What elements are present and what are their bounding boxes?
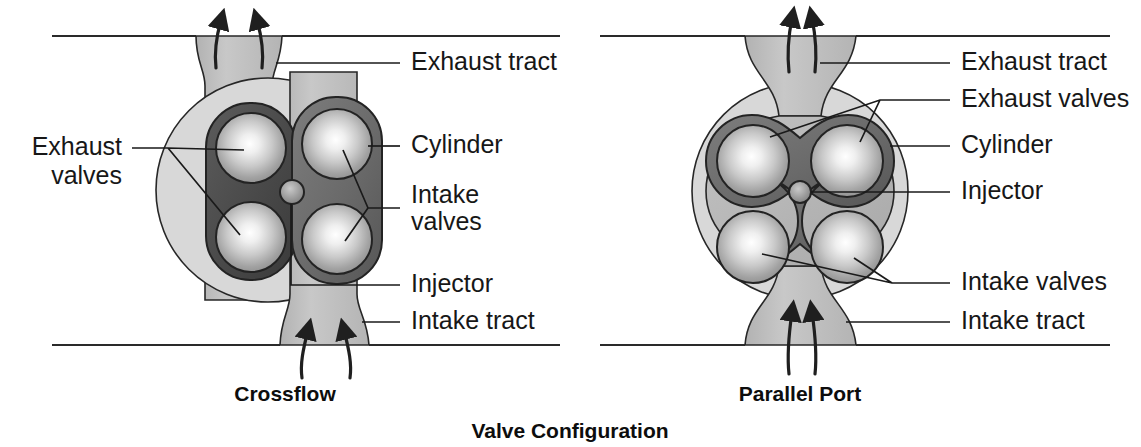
label-exhaust-valves-crossflow: Exhaust	[32, 132, 122, 160]
label-exhaust-tract-crossflow: Exhaust tract	[411, 47, 557, 75]
caption-parallel-port: Parallel Port	[739, 382, 862, 405]
label-intake-valves-parallel: Intake valves	[961, 267, 1107, 295]
panel-parallel-port: Exhaust tract Exhaust valves Cylinder In…	[600, 18, 1129, 405]
label-injector-crossflow: Injector	[411, 269, 493, 297]
injector-crossflow	[280, 180, 304, 204]
exhaust-valve-left-parallel	[717, 125, 789, 197]
intake-valve-lower-crossflow	[302, 204, 372, 274]
label-injector-parallel: Injector	[961, 176, 1043, 204]
intake-valve-left-parallel	[717, 211, 789, 283]
label-intake-tract-parallel: Intake tract	[961, 306, 1085, 334]
exhaust-valve-right-parallel	[811, 125, 883, 197]
intake-valve-upper-crossflow	[302, 109, 372, 179]
label-cylinder-crossflow: Cylinder	[411, 130, 503, 158]
exhaust-valve-lower-crossflow	[216, 202, 286, 272]
label-cylinder-parallel: Cylinder	[961, 130, 1053, 158]
label-intake-valves-crossflow: Intake	[411, 180, 479, 208]
caption-crossflow: Crossflow	[234, 382, 336, 405]
figure-title: Valve Configuration	[471, 419, 668, 442]
valve-configuration-figure: Exhaust tract Cylinder Intake valves Inj…	[0, 0, 1141, 447]
label-exhaust-valves-crossflow-line2: valves	[51, 161, 122, 189]
injector-parallel	[789, 181, 811, 203]
diagram-canvas: Exhaust tract Cylinder Intake valves Inj…	[0, 0, 1141, 447]
exhaust-valve-upper-crossflow	[216, 113, 286, 183]
label-exhaust-tract-parallel: Exhaust tract	[961, 47, 1107, 75]
panel-crossflow: Exhaust tract Cylinder Intake valves Inj…	[32, 20, 560, 405]
label-exhaust-valves-parallel: Exhaust valves	[961, 84, 1129, 112]
label-intake-valves-crossflow-line2: valves	[411, 207, 482, 235]
label-intake-tract-crossflow: Intake tract	[411, 306, 535, 334]
